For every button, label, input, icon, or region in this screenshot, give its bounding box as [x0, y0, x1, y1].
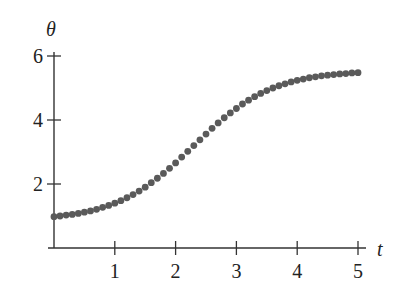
- data-point: [349, 70, 356, 77]
- x-ticks: 12345: [110, 241, 363, 282]
- data-point: [111, 200, 118, 207]
- data-point: [190, 142, 197, 149]
- data-point: [239, 101, 246, 108]
- data-point: [245, 97, 252, 104]
- data-point: [81, 209, 88, 216]
- data-point: [99, 204, 106, 211]
- data-point: [215, 119, 222, 126]
- data-point: [263, 87, 270, 94]
- data-point: [51, 213, 58, 220]
- data-point: [172, 159, 179, 166]
- data-point: [209, 125, 216, 132]
- data-point: [178, 154, 185, 161]
- data-point: [300, 76, 307, 83]
- data-point: [324, 72, 331, 79]
- y-tick: 4: [33, 109, 61, 131]
- data-point: [294, 77, 301, 84]
- data-point: [288, 79, 295, 86]
- x-axis-label: t: [377, 238, 383, 260]
- data-point: [154, 175, 161, 182]
- y-tick-label: 2: [33, 173, 43, 195]
- data-points: [51, 69, 362, 220]
- x-tick-label: 3: [231, 260, 241, 282]
- x-tick: 5: [353, 241, 363, 282]
- x-tick-label: 1: [110, 260, 120, 282]
- data-point: [203, 131, 210, 138]
- data-point: [57, 213, 64, 220]
- data-point: [166, 165, 173, 172]
- data-point: [306, 74, 313, 81]
- data-point: [184, 148, 191, 155]
- x-tick-label: 2: [171, 260, 181, 282]
- data-point: [117, 197, 124, 204]
- data-point: [93, 206, 100, 213]
- data-point: [336, 71, 343, 78]
- data-point: [251, 93, 258, 100]
- data-point: [312, 73, 319, 80]
- data-point: [276, 82, 283, 89]
- data-point: [318, 72, 325, 79]
- data-point: [197, 136, 204, 143]
- chart: 12345 246 t θ: [0, 0, 397, 295]
- data-point: [105, 202, 112, 209]
- x-tick: 1: [110, 241, 120, 282]
- data-point: [269, 85, 276, 92]
- data-point: [282, 80, 289, 87]
- data-point: [160, 170, 167, 177]
- x-tick-label: 4: [292, 260, 302, 282]
- x-tick: 4: [292, 241, 302, 282]
- data-point: [130, 191, 137, 198]
- data-point: [221, 114, 228, 121]
- data-point: [136, 188, 143, 195]
- data-point: [142, 184, 149, 191]
- data-point: [233, 105, 240, 112]
- data-point: [257, 90, 264, 97]
- data-point: [124, 194, 131, 201]
- data-point: [355, 69, 362, 76]
- y-ticks: 246: [33, 45, 61, 195]
- y-tick-label: 6: [33, 45, 43, 67]
- axes: 12345 246 t θ: [33, 18, 383, 282]
- data-point: [330, 71, 337, 78]
- data-point: [69, 211, 76, 218]
- data-point: [63, 212, 70, 219]
- y-tick: 2: [33, 173, 61, 195]
- data-point: [342, 70, 349, 77]
- y-tick-label: 4: [33, 109, 43, 131]
- data-point: [148, 179, 155, 186]
- x-tick: 3: [231, 241, 241, 282]
- x-tick: 2: [171, 241, 181, 282]
- y-axis-label: θ: [46, 18, 56, 40]
- data-point: [75, 210, 82, 217]
- x-tick-label: 5: [353, 260, 363, 282]
- data-point: [227, 110, 234, 117]
- y-tick: 6: [33, 45, 61, 67]
- data-point: [87, 207, 94, 214]
